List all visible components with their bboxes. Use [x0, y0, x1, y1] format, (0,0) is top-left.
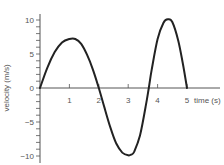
- y-tick-label: 5: [30, 50, 35, 59]
- x-tick-label: 4: [155, 96, 160, 105]
- x-axis-ticks: 12345: [67, 84, 190, 105]
- y-tick-label: −5: [25, 118, 35, 127]
- y-axis-label: velocity (m/s): [2, 64, 11, 111]
- x-tick-label: 3: [126, 96, 131, 105]
- y-tick-label: 0: [30, 84, 35, 93]
- y-axis-ticks: −10−50510: [20, 16, 40, 161]
- y-tick-label: −10: [20, 152, 34, 161]
- y-tick-label: 10: [25, 16, 34, 25]
- x-tick-label: 1: [67, 96, 72, 105]
- velocity-time-chart: −10−50510 12345 time (s) velocity (m/s): [0, 0, 224, 165]
- velocity-curve: [40, 19, 187, 155]
- x-tick-label: 5: [185, 96, 190, 105]
- x-axis-label: time (s): [194, 96, 221, 105]
